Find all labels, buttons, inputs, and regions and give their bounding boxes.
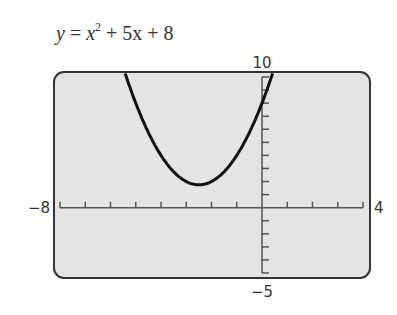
graph: 10 −5 −8 4 [0,0,397,315]
ymin-label: −5 [251,283,273,301]
xmin-label: −8 [28,199,50,217]
graph-screen [54,72,370,278]
ymax-label: 10 [252,54,271,72]
xmax-label: 4 [374,199,384,217]
